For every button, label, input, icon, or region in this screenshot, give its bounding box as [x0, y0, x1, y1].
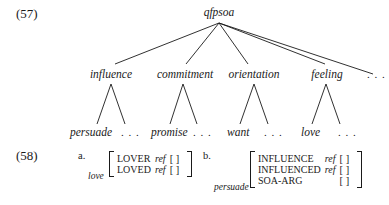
avm-row: LOVER ref [ ]	[117, 153, 183, 164]
avm-value: [ ]	[340, 175, 354, 186]
avm-ref: ref	[325, 153, 340, 164]
example-58b-label: b.	[203, 150, 211, 161]
avm-feature: LOVER	[117, 153, 155, 164]
tree-leaf-want: want	[227, 126, 249, 138]
avm-ref: ref	[155, 164, 170, 175]
tree-root-node: qfpsoa	[204, 6, 235, 18]
avm-row: INFLUENCED ref [ ]	[258, 164, 353, 175]
avm-ref: ref	[155, 153, 170, 164]
avm-love: LOVER ref [ ] LOVED ref [ ]	[109, 151, 192, 177]
avm-row: INFLUENCE ref [ ]	[258, 153, 353, 164]
tree-node-influence: influence	[90, 68, 132, 80]
avm-b-tag: persuade	[214, 182, 249, 192]
tree-leaf-more: . . .	[193, 126, 212, 138]
avm-a-tag: love	[88, 171, 104, 181]
avm-persuade: INFLUENCE ref [ ] INFLUENCED ref [ ] SOA…	[250, 151, 362, 188]
avm-feature: LOVED	[117, 164, 155, 175]
avm-value: [ ]	[170, 153, 184, 164]
example-58a-label: a.	[78, 150, 85, 161]
avm-feature: INFLUENCED	[258, 164, 325, 175]
example-58-number: (58)	[16, 148, 38, 164]
avm-row: LOVED ref [ ]	[117, 164, 183, 175]
tree-node-feeling: feeling	[311, 68, 342, 80]
tree-leaf-more: . . .	[121, 126, 140, 138]
avm-row: SOA-ARG [ ]	[258, 175, 353, 186]
tree-leaf-love: love	[301, 126, 320, 138]
avm-ref: ref	[325, 164, 340, 175]
tree-node-orientation: orientation	[228, 68, 279, 80]
tree-node-more: . . .	[367, 68, 386, 80]
tree-node-commitment: commitment	[157, 68, 213, 80]
tree-leaf-more: . . .	[264, 126, 283, 138]
tree-leaf-persuade: persuade	[70, 126, 112, 138]
tree-leaf-promise: promise	[151, 126, 188, 138]
avm-value: [ ]	[340, 153, 354, 164]
avm-ref	[325, 175, 340, 186]
tree-leaf-more: . . .	[338, 126, 357, 138]
avm-feature: SOA-ARG	[258, 175, 325, 186]
avm-feature: INFLUENCE	[258, 153, 325, 164]
avm-value: [ ]	[340, 164, 354, 175]
avm-value: [ ]	[170, 164, 184, 175]
